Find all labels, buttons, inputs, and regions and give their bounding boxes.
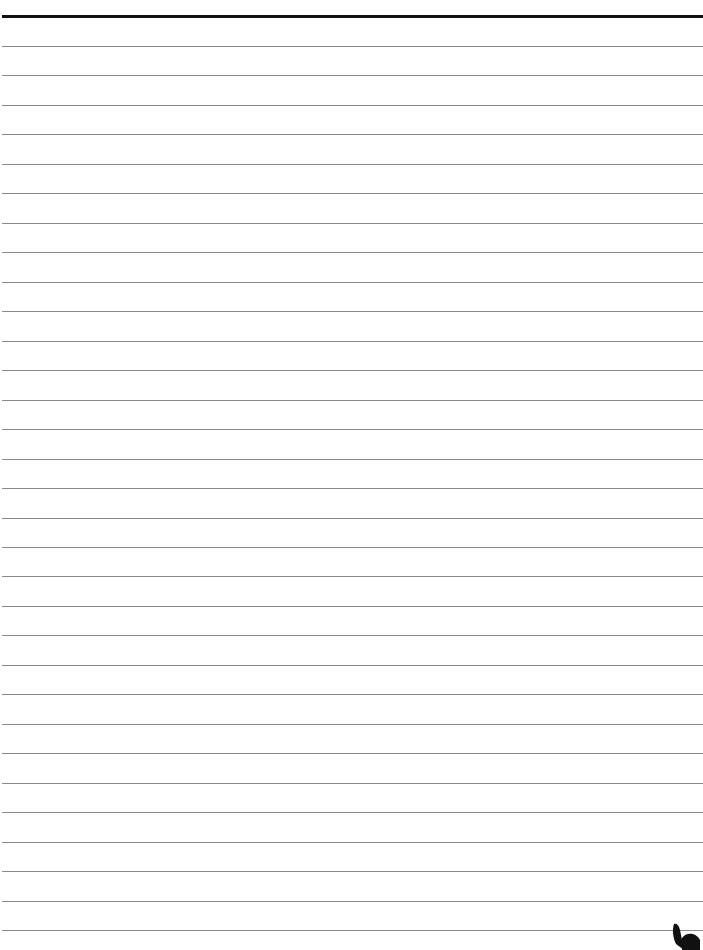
ruled-line: [2, 901, 703, 902]
ruled-line: [2, 930, 703, 931]
ruled-line: [2, 252, 703, 253]
ruled-line: [2, 400, 703, 401]
ruled-line: [2, 134, 703, 135]
ruled-line: [2, 223, 703, 224]
ruled-line: [2, 753, 703, 754]
ruled-line: [2, 547, 703, 548]
ruled-line: [2, 341, 703, 342]
ruled-line: [2, 783, 703, 784]
ruled-line: [2, 429, 703, 430]
ink-blot-icon: [670, 920, 703, 950]
ruled-line: [2, 311, 703, 312]
header-rule: [2, 15, 703, 18]
ruled-line: [2, 694, 703, 695]
ruled-line: [2, 488, 703, 489]
ruled-line: [2, 576, 703, 577]
ruled-line: [2, 518, 703, 519]
ruled-line: [2, 193, 703, 194]
ruled-line: [2, 665, 703, 666]
ruled-line: [2, 871, 703, 872]
ruled-line: [2, 105, 703, 106]
ruled-line: [2, 724, 703, 725]
ruled-line: [2, 164, 703, 165]
ruled-line: [2, 282, 703, 283]
ruled-line: [2, 606, 703, 607]
ruled-line: [2, 75, 703, 76]
ruled-line: [2, 812, 703, 813]
ruled-line: [2, 370, 703, 371]
ruled-line: [2, 459, 703, 460]
ruled-line: [2, 46, 703, 47]
ruled-line: [2, 842, 703, 843]
ruled-line: [2, 635, 703, 636]
